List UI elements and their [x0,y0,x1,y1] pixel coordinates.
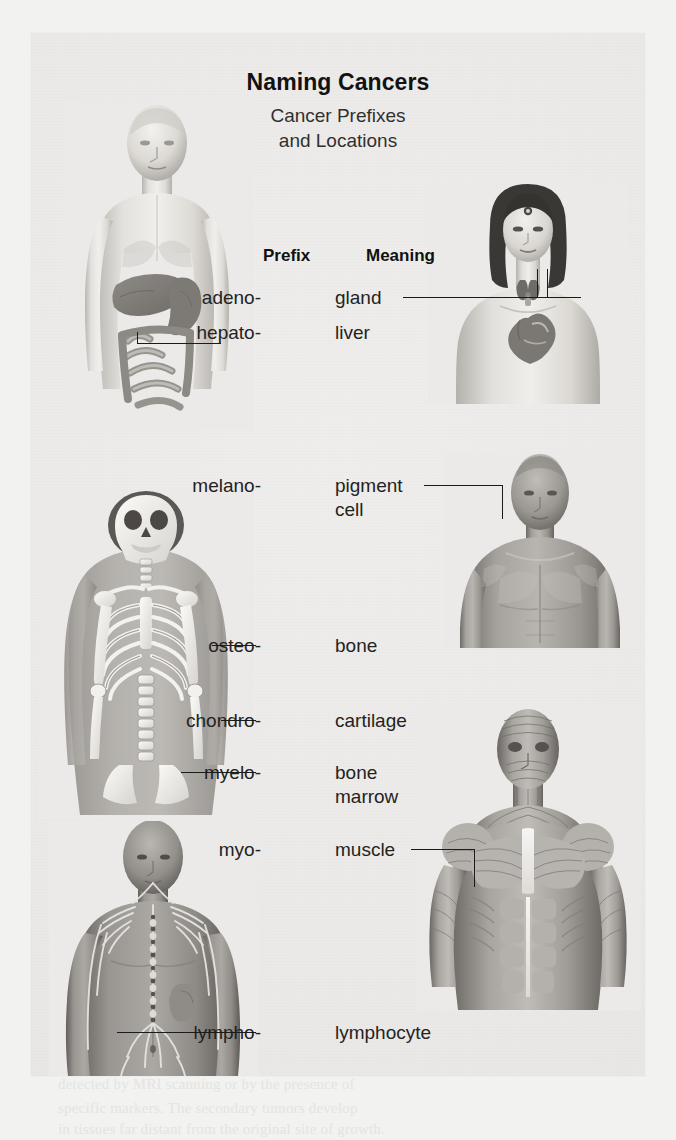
leader-line-adeno-branch-2 [547,269,548,298]
prefix-adeno: adeno- [131,286,261,310]
column-header-meaning: Meaning [366,246,435,266]
prefix-melano: melano- [131,474,261,498]
meaning-pigment-line2: cell [335,499,364,520]
leader-line-adeno-branch-1 [537,269,538,298]
figure-panel: Naming Cancers Cancer Prefixes and Locat… [31,33,645,1076]
prefix-osteo: osteo- [131,634,261,658]
prefix-myo: myo- [131,838,261,862]
meaning-pigment-cell: pigment cell [335,474,403,522]
figure-subtitle-line1: Cancer Prefixes [270,105,405,126]
leader-line-melano-drop [502,485,503,519]
illustration-male-torso-muscular [416,705,641,1010]
meaning-marrow-line1: bone [335,762,377,783]
leader-line-myo [411,849,475,850]
meaning-bone-marrow: bone marrow [335,761,398,809]
leader-line-adeno [403,297,581,298]
meaning-gland: gland [335,286,382,310]
page-bleed-through-bottom-2: detected by MRI scanning or by the prese… [58,1074,355,1095]
meaning-lymphocyte: lymphocyte [335,1021,431,1045]
prefix-hepato: hepato- [131,321,261,345]
prefix-myelo: myelo- [131,761,261,785]
column-header-prefix: Prefix [263,246,310,266]
meaning-cartilage: cartilage [335,709,407,733]
leader-line-lympho [117,1032,256,1033]
illustration-male-torso-skin [444,453,639,648]
leader-line-myelo [181,772,256,773]
leader-line-osteo [212,645,256,646]
meaning-pigment-line1: pigment [335,475,403,496]
meaning-muscle: muscle [335,838,395,862]
meaning-liver: liver [335,321,370,345]
leader-line-chondro [221,720,256,721]
leader-line-myo-drop [474,849,475,887]
leader-line-hepato [137,343,221,344]
illustration-female-torso-thyroid [428,184,628,404]
meaning-bone: bone [335,634,377,658]
leader-line-hepato-tick [137,332,138,344]
prefix-lympho: lympho- [131,1021,261,1045]
prefix-chondro: chondro- [131,709,261,733]
figure-title: Naming Cancers [31,69,645,96]
meaning-marrow-line2: marrow [335,786,398,807]
page-bleed-through-bottom-3: specific markers. The secondary tumors d… [58,1098,358,1119]
figure-subtitle-line2: and Locations [279,130,397,151]
page-bleed-through-bottom-4: in tissues far distant from the original… [58,1119,385,1140]
leader-line-melano [424,485,503,486]
figure-subtitle: Cancer Prefixes and Locations [31,103,645,153]
